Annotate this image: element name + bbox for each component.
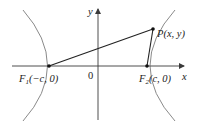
- p-label: P(x, y): [156, 28, 185, 40]
- y-axis-label: y: [87, 6, 93, 17]
- point-p: [151, 27, 155, 31]
- p-coords: (x, y): [163, 28, 185, 40]
- f1-label: F1(−c, 0): [18, 73, 59, 86]
- f2-label: F2(c, 0): [138, 73, 172, 86]
- hyperbola-diagram: y x 0 F1(−c, 0) F2(c, 0) P(x, y): [0, 0, 197, 136]
- origin-label: 0: [88, 70, 93, 81]
- f2-coords: (c, 0): [149, 73, 172, 85]
- hyperbola-right-branch: [150, 10, 175, 121]
- x-axis-label: x: [181, 71, 187, 82]
- segment-f1-p: [49, 29, 153, 66]
- f1-coords: (−c, 0): [29, 73, 59, 85]
- point-f1: [47, 64, 51, 68]
- point-f2: [145, 64, 149, 68]
- hyperbola-left-branch: [23, 10, 48, 121]
